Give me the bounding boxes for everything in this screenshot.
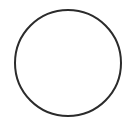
circle-outline xyxy=(15,10,121,116)
canvas xyxy=(0,0,125,122)
